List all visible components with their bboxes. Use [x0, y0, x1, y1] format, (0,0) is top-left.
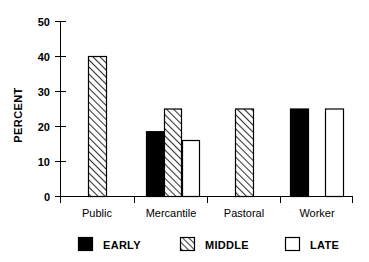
- bar-pastoral-middle: [236, 109, 254, 197]
- chart-legend: EARLY MIDDLE LATE: [79, 238, 340, 252]
- y-tick-label-40: 40: [38, 51, 50, 63]
- legend-item-middle: MIDDLE: [181, 238, 249, 252]
- legend-swatch-early: [79, 238, 93, 251]
- bar-group-public: [89, 57, 107, 197]
- chart-background: [0, 0, 369, 262]
- x-category-label-mercantile: Mercantile: [146, 207, 197, 219]
- legend-label-middle: MIDDLE: [205, 239, 249, 251]
- x-category-label-pastoral: Pastoral: [224, 207, 264, 219]
- bar-worker-early: [291, 109, 309, 197]
- legend-swatch-late: [286, 238, 300, 251]
- bar-mercantile-middle: [165, 109, 182, 197]
- legend-item-late: LATE: [286, 238, 340, 252]
- y-tick-label-20: 20: [38, 121, 50, 133]
- legend-item-early: EARLY: [79, 238, 142, 252]
- bar-mercantile-late: [183, 141, 200, 197]
- x-category-label-worker: Worker: [299, 207, 335, 219]
- legend-swatch-middle: [181, 238, 195, 251]
- x-category-label-public: Public: [82, 207, 112, 219]
- bar-mercantile-early: [147, 132, 164, 197]
- y-tick-label-10: 10: [38, 156, 50, 168]
- chart-canvas: 0 10 20 30 40 50 PERCENT Public Mercanti…: [0, 0, 369, 262]
- legend-label-early: EARLY: [103, 239, 141, 251]
- y-tick-label-50: 50: [38, 16, 50, 28]
- y-tick-label-30: 30: [38, 86, 50, 98]
- bar-worker-late: [326, 109, 344, 197]
- legend-label-late: LATE: [310, 239, 339, 251]
- bar-chart-figure: 0 10 20 30 40 50 PERCENT Public Mercanti…: [0, 0, 369, 262]
- bar-group-pastoral: [236, 109, 254, 197]
- y-tick-label-0: 0: [44, 191, 50, 203]
- y-axis-title: PERCENT: [12, 87, 24, 142]
- bar-public-middle: [89, 57, 107, 197]
